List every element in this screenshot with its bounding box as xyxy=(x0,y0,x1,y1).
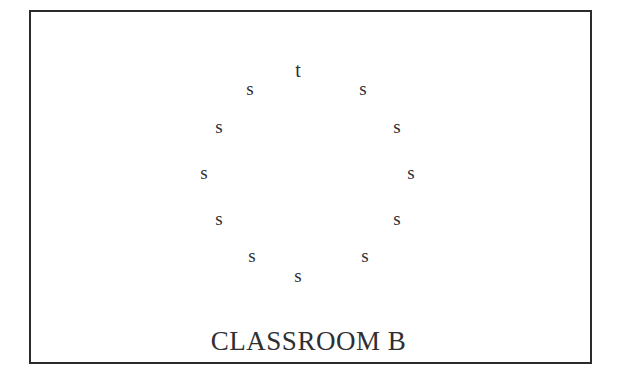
seat-marker-teacher: t xyxy=(289,60,307,80)
diagram-canvas: tsssssssssss CLASSROOM B xyxy=(0,0,617,384)
seat-marker-student: s xyxy=(243,246,261,265)
seat-marker-student: s xyxy=(388,209,406,228)
seat-marker-student: s xyxy=(402,163,420,182)
seat-marker-student: s xyxy=(210,209,228,228)
classroom-boundary xyxy=(29,10,592,364)
seat-marker-student: s xyxy=(354,79,372,98)
seat-marker-student: s xyxy=(241,79,259,98)
seat-marker-student: s xyxy=(195,163,213,182)
seat-marker-student: s xyxy=(210,117,228,136)
seat-marker-student: s xyxy=(388,117,406,136)
seat-marker-student: s xyxy=(289,266,307,285)
seat-marker-student: s xyxy=(356,246,374,265)
room-label: CLASSROOM B xyxy=(0,326,617,357)
